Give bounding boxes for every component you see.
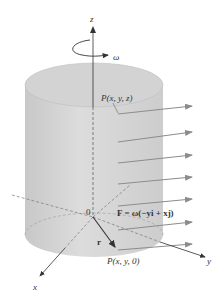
z-axis-label: z <box>89 14 94 24</box>
field-equation: F = ω(−yi + xj) <box>117 208 174 218</box>
radius-vector-label: r <box>97 237 101 247</box>
point-top-label: P(x, y, z) <box>100 93 133 103</box>
rotation-arrow-icon <box>73 40 108 56</box>
point-bottom-label: P(x, y, 0) <box>106 256 139 266</box>
rotating-cylinder-diagram: z ω x y r 0 P(x, y, z) P(x, y, 0) F = ω(… <box>0 0 217 297</box>
x-axis-label: x <box>32 282 37 292</box>
y-axis-label: y <box>206 256 211 266</box>
origin-label: 0 <box>86 207 91 217</box>
omega-label: ω <box>113 52 119 62</box>
